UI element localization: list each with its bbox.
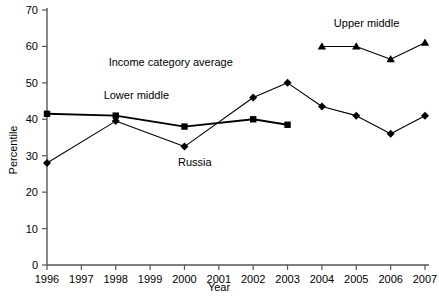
y-axis-tick-label: 40 [26,113,38,125]
y-axis-tick-label: 20 [26,186,38,198]
annotation-upper-middle: Upper middle [334,17,399,29]
y-axis-tick-label: 30 [26,150,38,162]
data-point-square [284,122,290,128]
annotation-russia: Russia [178,156,213,168]
x-axis-tick-label: 2005 [344,273,368,285]
y-axis-tick-label: 70 [26,4,38,16]
x-axis-tick-label: 1999 [138,273,162,285]
y-axis-tick-label: 0 [32,259,38,271]
data-point-square [181,123,187,129]
x-axis-tick-label: 2004 [310,273,334,285]
data-point-square [44,111,50,117]
x-axis-tick-label: 2000 [172,273,196,285]
annotation-income-category-average: Income category average [109,56,233,68]
y-axis-tick-label: 50 [26,77,38,89]
x-axis-tick-label: 1997 [69,273,93,285]
y-axis-title: Percentile [7,126,19,175]
x-axis-tick-label: 2002 [241,273,265,285]
chart-container: 010203040506070 199619971998199920002001… [0,0,439,299]
y-axis-tick-label: 60 [26,40,38,52]
x-axis-title: Year [208,281,231,293]
percentile-line-chart: 010203040506070 199619971998199920002001… [0,0,439,299]
x-axis-tick-label: 1998 [103,273,127,285]
data-point-square [250,116,256,122]
chart-background [0,0,439,299]
x-axis-tick-label: 1996 [35,273,59,285]
y-axis-tick-label: 10 [26,223,38,235]
data-point-square [113,112,119,118]
annotation-lower-middle: Lower middle [104,89,169,101]
x-axis-tick-label: 2003 [275,273,299,285]
x-axis-tick-label: 2007 [413,273,437,285]
x-axis-tick-label: 2006 [378,273,402,285]
